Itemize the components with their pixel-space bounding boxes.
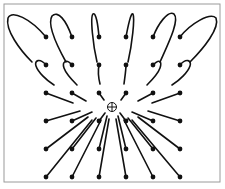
- trajectory-r5c1: [72, 120, 101, 177]
- trajectory-r2c0: [46, 93, 73, 103]
- grid-dot: [44, 63, 49, 68]
- grid-dot: [178, 91, 183, 96]
- grid-dot: [151, 147, 156, 152]
- figure-frame: [4, 4, 220, 182]
- grid-dot: [178, 35, 183, 40]
- trajectory-r2c5: [152, 93, 180, 103]
- grid-dot: [44, 119, 49, 124]
- trajectory-r1c3: [124, 65, 126, 84]
- grid-dot: [151, 91, 156, 96]
- grid-dot: [70, 147, 75, 152]
- grid-dot: [70, 119, 75, 124]
- grid-dot: [70, 91, 75, 96]
- trajectory-r2c1: [72, 93, 86, 101]
- grid-dot: [70, 175, 75, 180]
- grid-dot: [97, 175, 102, 180]
- grid-dot: [44, 91, 49, 96]
- trajectory-r3c1: [72, 112, 92, 121]
- grid-dot: [97, 63, 102, 68]
- trajectory-r0c4: [153, 13, 176, 62]
- trajectory-r2c4: [138, 93, 153, 101]
- trajectory-r5c0: [46, 120, 92, 177]
- trajectory-r4c1: [72, 118, 96, 149]
- grid-dot: [178, 63, 183, 68]
- grid-dot: [97, 147, 102, 152]
- grid-dot: [97, 91, 102, 96]
- crosshair-circle-icon: [108, 103, 117, 112]
- grid-dot: [124, 119, 129, 124]
- grid-dot: [97, 119, 102, 124]
- trajectory-r4c5: [138, 117, 180, 149]
- grid-dot: [124, 91, 129, 96]
- grid-dot: [151, 35, 156, 40]
- trajectory-r1c2: [98, 65, 100, 84]
- grid-dot: [124, 63, 129, 68]
- trajectory-r0c5: [180, 16, 217, 62]
- grid-dot: [178, 147, 183, 152]
- grid-dot: [178, 175, 183, 180]
- grid-dot: [151, 119, 156, 124]
- grid-dot: [124, 147, 129, 152]
- grid-dot: [151, 63, 156, 68]
- grid-dot: [70, 35, 75, 40]
- trajectory-r0c0: [8, 15, 46, 62]
- grid-dot: [44, 175, 49, 180]
- grid-dot: [178, 119, 183, 124]
- grid-dot: [44, 35, 49, 40]
- grid-dot: [124, 175, 129, 180]
- grid-dot: [124, 35, 129, 40]
- trajectory-r0c1: [51, 14, 72, 62]
- grid-dot: [70, 63, 75, 68]
- grid-dot: [97, 35, 102, 40]
- vector-field-diagram: [0, 0, 225, 189]
- trajectory-paths: [8, 13, 217, 177]
- grid-dot: [151, 175, 156, 180]
- grid-dot: [44, 147, 49, 152]
